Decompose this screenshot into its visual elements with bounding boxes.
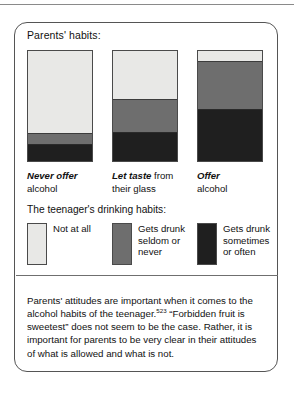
bar-label-never-offer: Never offer alcohol bbox=[27, 169, 111, 195]
bar-label-line2: their glass bbox=[112, 183, 156, 194]
bar-segment-seldom-or-never bbox=[28, 133, 92, 144]
legend-label-line1: Not at all bbox=[53, 223, 91, 234]
legend-label-line3: or often bbox=[223, 246, 256, 257]
bar-label-lead: Never offer bbox=[27, 170, 77, 181]
chart-legend: Not at all Gets drunk seldom or never Ge… bbox=[27, 223, 271, 269]
fact-box-title: Parents' habits: bbox=[27, 29, 101, 41]
bar-segment-not-at-all bbox=[198, 51, 262, 61]
legend-title: The teenager's drinking habits: bbox=[27, 204, 166, 215]
legend-label: Gets drunk sometimes or often bbox=[223, 223, 281, 258]
bar-segment-sometimes-or-often bbox=[198, 109, 262, 161]
legend-label-line2: seldom or bbox=[138, 235, 180, 246]
bar-segment-seldom-or-never bbox=[113, 99, 177, 132]
stacked-bar-chart bbox=[27, 50, 267, 162]
legend-swatch-icon bbox=[27, 223, 47, 265]
bar-column-offer-alcohol bbox=[197, 50, 263, 162]
bar-label-line2: alcohol bbox=[27, 183, 57, 194]
stacked-bar bbox=[112, 50, 178, 162]
legend-label-line1: Gets drunk bbox=[223, 223, 270, 234]
legend-item-not-at-all: Not at all bbox=[27, 223, 111, 265]
legend-label-line3: never bbox=[138, 246, 162, 257]
bar-segment-not-at-all bbox=[113, 51, 177, 99]
section-divider bbox=[16, 275, 278, 276]
bar-label-line2: alcohol bbox=[197, 183, 227, 194]
legend-label-line2: sometimes bbox=[223, 235, 269, 246]
legend-label: Gets drunk seldom or never bbox=[138, 223, 196, 258]
bar-label-lead: Let taste bbox=[112, 170, 151, 181]
bar-segment-not-at-all bbox=[28, 51, 92, 133]
reference-superscript: 523 bbox=[156, 307, 166, 314]
bar-column-never-offer bbox=[27, 50, 93, 162]
bar-segment-sometimes-or-often bbox=[113, 132, 177, 161]
bar-category-labels: Never offer alcohol Let taste from their… bbox=[27, 169, 271, 199]
bar-label-offer: Offer alcohol bbox=[197, 169, 271, 195]
stacked-bar bbox=[197, 50, 263, 162]
legend-item-seldom-or-never: Gets drunk seldom or never bbox=[112, 223, 196, 265]
bar-segment-seldom-or-never bbox=[198, 61, 262, 110]
legend-label: Not at all bbox=[53, 223, 111, 235]
stacked-bar bbox=[27, 50, 93, 162]
legend-label-line1: Gets drunk bbox=[138, 223, 185, 234]
bar-label-let-taste: Let taste from their glass bbox=[112, 169, 196, 195]
legend-swatch-icon bbox=[112, 223, 132, 265]
legend-item-sometimes-or-often: Gets drunk sometimes or often bbox=[197, 223, 281, 265]
bar-segment-sometimes-or-often bbox=[28, 144, 92, 161]
fact-box-body-text: Parents' attitudes are important when it… bbox=[27, 294, 267, 360]
bar-label-tail: from bbox=[151, 170, 173, 181]
bar-label-lead: Offer bbox=[197, 170, 220, 181]
fact-box: Parents' habits: Neve bbox=[14, 22, 278, 372]
bar-column-let-taste bbox=[112, 50, 178, 162]
legend-swatch-icon bbox=[197, 223, 217, 265]
page-top-rule bbox=[0, 4, 294, 5]
